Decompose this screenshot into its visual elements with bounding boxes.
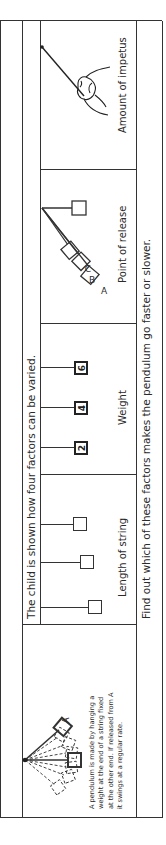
divider-weight-release [40,323,136,324]
factor-label-length: Length of string [117,518,128,597]
header-rule-top [22,21,23,818]
divider-intro [22,624,136,625]
intro-description: A pendulum is made by hanging a weight a… [88,689,125,809]
string-short [40,524,75,525]
string-weight-2 [40,447,76,448]
frame-bottom [162,21,163,818]
point-label-a: A [101,286,107,296]
string-weight-4 [40,407,76,408]
hand-pushing-icon [40,21,115,169]
factor-label-release: Point of release [117,206,128,283]
string-medium [40,562,82,563]
factor-label-weight: Weight [117,390,128,425]
release-points-icon [40,171,115,323]
bob-medium [80,555,94,569]
factor-label-impetus: Amount of impetus [117,37,128,133]
bob-short [73,517,87,531]
caption-text: Find out which of these factors makes th… [140,239,152,619]
caption-rule [136,21,137,818]
weight-6: 6 [74,361,88,375]
string-weight-6 [40,367,76,368]
divider-length-weight [40,474,136,475]
release-point-label: A [62,718,71,723]
divider-release-impetus [40,169,136,170]
point-label-b: B [89,275,95,285]
bob-long [88,600,102,614]
swinging-pendulum-icon [22,705,87,815]
weight-2: 2 [74,441,88,455]
pendulum-worksheet-figure: The child is shown how four factors can … [0,0,166,845]
point-label-c: C [85,264,91,274]
frame-top [0,21,1,818]
frame-left [0,817,162,818]
string-long [40,607,90,608]
weight-4: 4 [74,401,88,415]
header-text: The child is shown how four factors can … [25,355,37,619]
